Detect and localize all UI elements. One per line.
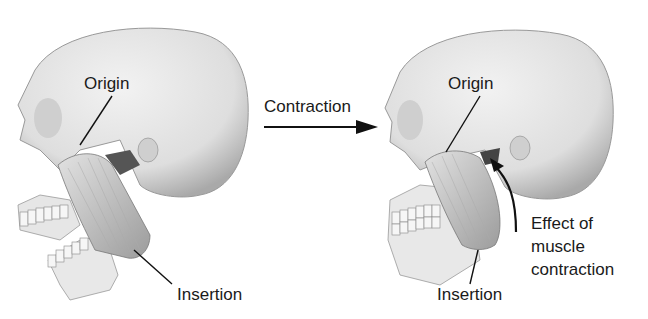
left-insertion-pointer xyxy=(134,250,172,284)
right-origin-label: Origin xyxy=(448,74,493,94)
contraction-arrow xyxy=(264,120,378,134)
effect-label-line1: Effect of xyxy=(531,214,593,234)
effect-label-line2: muscle xyxy=(531,237,585,257)
left-insertion-label: Insertion xyxy=(177,285,242,305)
effect-label-line3: contraction xyxy=(531,260,614,280)
right-insertion-label: Insertion xyxy=(437,285,502,305)
left-origin-label: Origin xyxy=(84,74,129,94)
left-skull-illustration xyxy=(18,28,248,300)
contraction-label: Contraction xyxy=(264,97,351,117)
